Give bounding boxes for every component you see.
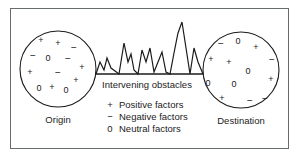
origin-symbol: 0 [63,86,68,95]
legend-item-positive: + Positive factors [105,99,188,111]
destination-symbol: 0 [245,67,250,76]
destination-symbol: − [218,39,224,48]
legend-label-positive: Positive factors [119,99,183,110]
origin-symbol: + [55,39,60,48]
destination-symbol: + [208,55,213,64]
mountain-zigzag [96,22,203,74]
origin-label: Origin [45,114,70,125]
legend-label-neutral: Neutral factors [119,123,181,134]
legend-label-negative: Negative factors [119,111,188,122]
origin-symbol: 0 [36,84,41,93]
origin-symbol: − [30,51,36,60]
destination-symbol: 0 [235,37,240,46]
destination-label: Destination [217,115,265,126]
destination-symbol: − [262,94,268,103]
legend-item-neutral: 0 Neutral factors [105,123,188,135]
origin-symbol: − [55,68,61,77]
destination-symbol: + [226,58,231,67]
destination-symbol: − [269,55,275,64]
intervening-obstacles-label: Intervening obstacles [102,79,192,90]
origin-symbol: + [79,63,84,72]
origin-symbol: + [27,68,32,77]
destination-symbol: + [253,43,258,52]
destination-symbol: − [247,96,253,105]
legend-item-negative: − Negative factors [105,111,188,123]
legend-symbol-positive: + [105,99,115,110]
origin-symbol: + [38,36,43,45]
origin-symbol: − [71,43,77,52]
destination-symbol: 0 [231,80,236,89]
legend-symbol-negative: − [105,111,115,122]
destination-symbol: 0 [205,79,210,88]
origin-symbol: + [49,83,54,92]
destination-symbol: + [219,94,224,103]
legend: + Positive factors − Negative factors 0 … [105,99,188,135]
figure-container: + + − − 0 − + − + + 0 + 0 − 0 + + + − 0 … [0,0,301,158]
origin-symbol: 0 [45,54,50,63]
origin-symbol: − [65,54,71,63]
legend-symbol-neutral: 0 [105,123,115,134]
origin-symbol: + [73,76,78,85]
destination-symbol: + [268,75,273,84]
